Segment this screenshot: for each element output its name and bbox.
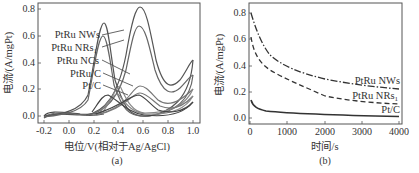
legend-item: Pt/C — [381, 104, 400, 115]
legend-item: PtRu NRs1 — [51, 42, 97, 55]
legend-item: PtRu NWs — [55, 29, 100, 40]
x-tick-label: 0.8 — [162, 125, 175, 136]
legend-item: Pt/C — [82, 80, 101, 91]
y-axis-label-b: 电流/(A/mgPt) — [213, 33, 226, 96]
figure: 0.0 0.2 0.4 0.6 0.8 -0.2 0.0 0.2 0.4 0.6… — [0, 0, 419, 173]
x-tick-label: 0 — [248, 126, 253, 137]
y-tick-label: 0.4 — [234, 60, 247, 71]
y-tick-label: 0.4 — [23, 57, 36, 68]
y-tick-label: 0.0 — [234, 112, 247, 123]
y-tick-label: 0.6 — [23, 30, 36, 41]
x-tick-label: 3000 — [352, 126, 372, 137]
y-tick-label: 0.2 — [234, 86, 247, 97]
panel-b: 0.0 0.2 0.4 0.6 0.8 0 1000 2000 3000 400… — [213, 3, 409, 167]
y-tick-label: 0.2 — [23, 83, 36, 94]
x-tick-label: 0.0 — [63, 125, 76, 136]
legend-item: PtRu NRs1 — [352, 90, 398, 103]
x-tick-label: 0.4 — [112, 125, 125, 136]
y-tick-label: 0.8 — [23, 3, 36, 14]
caption-a: (a) — [111, 155, 122, 167]
legend-item: PtRu/C — [70, 68, 101, 79]
x-axis-label-a: 电位/V(相对于Ag/AgCl) — [64, 140, 171, 153]
x-tick-label: 1000 — [277, 126, 297, 137]
x-axis-label-b: 时间/s — [311, 140, 338, 152]
legend-item: PtRu NWs — [355, 75, 400, 86]
y-tick-label: 0.0 — [23, 110, 36, 121]
x-tick-label: 4000 — [389, 126, 409, 137]
panel-a: 0.0 0.2 0.4 0.6 0.8 -0.2 0.0 0.2 0.4 0.6… — [2, 3, 200, 167]
y-tick-label: 0.6 — [234, 33, 247, 44]
legend-b: PtRu NWs PtRu NRs1 Pt/C — [352, 75, 400, 115]
y-tick-label: 0.8 — [234, 7, 247, 18]
y-axis-label-a: 电流/(A/mgPt) — [2, 31, 15, 94]
x-tick-label: 0.6 — [137, 125, 150, 136]
x-tick-label: 2000 — [315, 126, 335, 137]
caption-b: (b) — [319, 155, 331, 167]
plot-frame-b — [249, 3, 402, 124]
x-tick-label: 0.2 — [88, 125, 101, 136]
x-tick-label: 1.0 — [187, 125, 200, 136]
x-tick-label: -0.2 — [36, 125, 52, 136]
legend-item: PtRu NCs — [57, 55, 99, 66]
